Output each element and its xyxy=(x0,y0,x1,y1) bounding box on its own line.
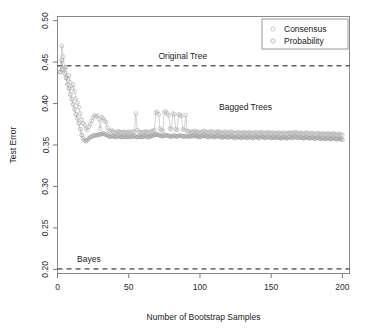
legend-label-probability: Probability xyxy=(284,36,324,46)
x-axis-title: Number of Bootstrap Samples xyxy=(147,312,261,322)
series-line-probability xyxy=(60,60,342,141)
y-tick-label: 0.30 xyxy=(41,178,51,195)
legend-label-consensus: Consensus xyxy=(284,24,327,34)
x-tick-label: 200 xyxy=(335,282,349,292)
annotation-bagged-trees: Bagged Trees xyxy=(219,102,272,112)
y-tick-label: 0.45 xyxy=(41,54,51,71)
y-axis-title: Test Error xyxy=(8,126,18,163)
y-tick-label: 0.25 xyxy=(41,219,51,236)
y-tick-label: 0.40 xyxy=(41,95,51,112)
x-tick-label: 50 xyxy=(124,282,134,292)
annotation-bayes: Bayes xyxy=(77,254,101,264)
y-tick-label: 0.20 xyxy=(41,261,51,278)
x-tick-label: 150 xyxy=(264,282,278,292)
y-tick-label: 0.50 xyxy=(41,12,51,29)
x-tick-label: 100 xyxy=(193,282,207,292)
x-tick-label: 0 xyxy=(55,282,60,292)
annotation-original-tree: Original Tree xyxy=(159,51,208,61)
test-error-chart: 0.200.250.300.350.400.450.50050100150200… xyxy=(0,0,365,328)
chart-figure: 0.200.250.300.350.400.450.50050100150200… xyxy=(0,0,365,328)
y-tick-label: 0.35 xyxy=(41,136,51,153)
